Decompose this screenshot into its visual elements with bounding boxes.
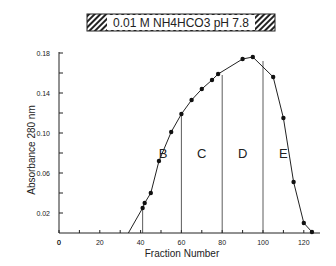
data-point (179, 112, 183, 116)
absorbance-curve (128, 57, 312, 233)
data-point (240, 57, 244, 61)
data-point (281, 116, 285, 120)
data-point (302, 221, 306, 225)
data-point (142, 201, 146, 205)
svg-text:40: 40 (137, 239, 145, 246)
svg-text:0.06: 0.06 (36, 170, 50, 177)
svg-text:0.14: 0.14 (36, 90, 50, 97)
chart: 0.01 M NH4HCO3 pH 7.80204060801001200.02… (0, 0, 336, 266)
svg-text:60: 60 (178, 239, 186, 246)
data-point (157, 159, 161, 163)
data-point (200, 87, 204, 91)
data-point (271, 75, 275, 79)
region-label: E (279, 146, 288, 161)
y-axis-label: Absorbance 280 nm (26, 105, 37, 195)
data-point (169, 130, 173, 134)
data-point (251, 55, 255, 59)
svg-text:20: 20 (96, 239, 104, 246)
data-point (291, 180, 295, 184)
svg-text:80: 80 (218, 239, 226, 246)
data-point (310, 230, 314, 234)
x-axis-label: Fraction Number (145, 248, 220, 259)
chart-title: 0.01 M NH4HCO3 pH 7.8 (113, 16, 249, 30)
svg-text:0.02: 0.02 (36, 210, 50, 217)
data-point (149, 191, 153, 195)
svg-text:0.10: 0.10 (36, 130, 50, 137)
svg-text:120: 120 (298, 239, 310, 246)
svg-text:100: 100 (257, 239, 269, 246)
data-point (216, 72, 220, 76)
svg-text:0.18: 0.18 (36, 50, 50, 57)
data-point (210, 78, 214, 82)
svg-text:0: 0 (57, 239, 61, 246)
data-point (189, 98, 193, 102)
data-point (140, 206, 144, 210)
region-label: D (238, 146, 247, 161)
plot-svg: 0.01 M NH4HCO3 pH 7.80204060801001200.02… (0, 0, 336, 266)
region-label: C (197, 146, 206, 161)
